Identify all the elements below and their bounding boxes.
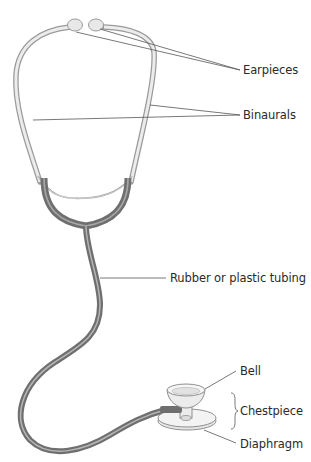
label-earpieces: Earpieces <box>243 63 298 77</box>
label-bell: Bell <box>240 364 261 378</box>
binaurals-graphic <box>16 27 154 198</box>
label-binaurals: Binaurals <box>243 108 296 122</box>
tubing-graphic <box>21 226 165 451</box>
earpieces-graphic <box>68 19 104 31</box>
label-chestpiece: Chestpiece <box>240 404 303 418</box>
leader-lines <box>33 29 240 443</box>
yoke-tubing-graphic <box>44 178 128 226</box>
stethoscope-diagram: Earpieces Binaurals Rubber or plastic tu… <box>0 0 311 462</box>
chestpiece-graphic <box>158 384 216 430</box>
label-tubing: Rubber or plastic tubing <box>170 271 306 285</box>
label-diaphragm: Diaphragm <box>240 437 303 451</box>
